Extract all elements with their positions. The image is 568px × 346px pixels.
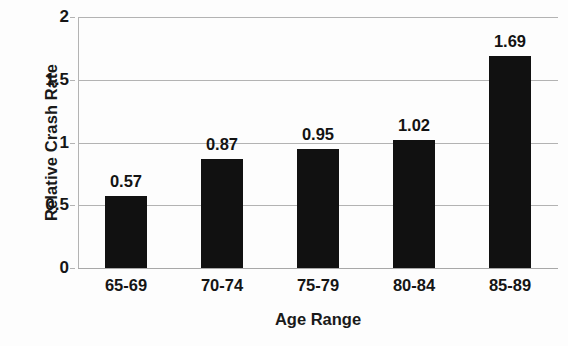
bar-80-84[interactable] [393,140,435,268]
y-tick-label-1: 1 [9,133,69,153]
x-axis-title: Age Range [78,310,558,329]
bar-value-label-85-89: 1.69 [494,32,526,51]
bar-value-label-70-74: 0.87 [206,135,238,154]
x-tick-label-85-89: 85-89 [489,276,531,295]
bar-75-79[interactable] [297,149,339,268]
bar-group: 0.95 [270,17,366,268]
bar-value-label-65-69: 0.57 [110,172,142,191]
y-tick-label-0: 0 [9,258,69,278]
y-tick-mark [70,80,75,81]
x-tick-label-65-69: 65-69 [105,276,147,295]
gridline-0 [78,268,558,269]
x-tick-label-70-74: 70-74 [201,276,243,295]
x-tick-label-80-84: 80-84 [393,276,435,295]
y-axis-tick-labels: 00.511.52 [0,17,69,268]
x-axis-tick-labels: 65-6970-7475-7980-8485-89 [78,276,558,300]
bar-65-69[interactable] [105,196,147,268]
y-tick-label-0.5: 0.5 [9,195,69,215]
y-tick-mark [70,205,75,206]
y-tick-mark [70,17,75,18]
bar-chart: Relative Crash Rate 00.511.52 0.570.870.… [0,0,568,346]
bar-group: 0.57 [78,17,174,268]
y-tick-label-1.5: 1.5 [9,70,69,90]
bar-value-label-80-84: 1.02 [398,116,430,135]
bar-85-89[interactable] [489,56,531,268]
plot-area: 0.570.870.951.021.69 [78,17,558,268]
bar-70-74[interactable] [201,159,243,268]
y-tick-label-2: 2 [9,7,69,27]
y-tick-mark [70,268,75,269]
bar-group: 1.02 [366,17,462,268]
bar-group: 0.87 [174,17,270,268]
x-tick-label-75-79: 75-79 [297,276,339,295]
bar-value-label-75-79: 0.95 [302,125,334,144]
y-tick-mark [70,143,75,144]
bar-group: 1.69 [462,17,558,268]
